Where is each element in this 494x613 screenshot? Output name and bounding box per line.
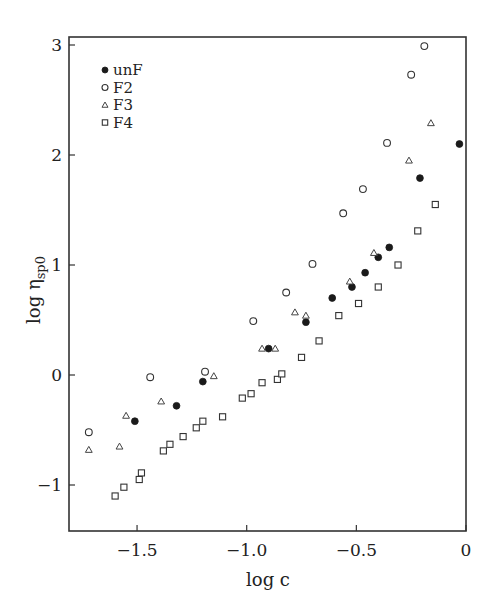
data-point — [202, 368, 209, 375]
legend-label: F4 — [113, 114, 133, 132]
data-point — [309, 261, 316, 268]
data-point — [121, 484, 127, 490]
y-tick-label: 3 — [51, 35, 62, 55]
data-point — [210, 373, 217, 379]
x-tick-label: 0 — [461, 540, 472, 560]
data-point — [298, 354, 304, 360]
data-point — [362, 269, 369, 276]
data-point — [415, 228, 421, 234]
data-point — [316, 338, 322, 344]
open-square-icon — [102, 120, 107, 125]
data-point — [239, 395, 245, 401]
data-point — [340, 210, 347, 217]
series-unf — [131, 141, 462, 425]
filled-circle-icon — [102, 67, 108, 73]
data-point — [85, 446, 92, 452]
data-point — [408, 71, 415, 78]
data-point — [329, 295, 336, 302]
data-point — [421, 43, 428, 50]
data-point — [395, 262, 401, 268]
data-point — [265, 345, 272, 352]
data-point — [220, 414, 226, 420]
legend-item-f2: F2 — [102, 79, 133, 97]
legend-item-f4: F4 — [102, 114, 133, 132]
data-point — [199, 378, 206, 385]
data-point — [432, 201, 438, 207]
data-point — [259, 345, 266, 351]
open-circle-icon — [102, 85, 108, 91]
y-axis-label-main: log η — [23, 279, 44, 324]
data-point — [375, 284, 381, 290]
data-point — [116, 443, 123, 449]
legend-item-f3: F3 — [102, 96, 133, 114]
data-point — [112, 493, 118, 499]
data-point — [292, 309, 299, 315]
data-point — [200, 418, 206, 424]
data-point — [386, 244, 393, 251]
data-point — [360, 186, 367, 193]
data-point — [428, 120, 435, 126]
data-point — [384, 140, 391, 147]
data-point — [303, 319, 310, 326]
scatter-chart: −1.5−1.0−0.50 −10123 unFF2F3F4 log c log… — [0, 0, 494, 613]
data-point — [85, 429, 92, 436]
legend-label: unF — [113, 61, 143, 79]
x-tick-label: −1.0 — [226, 540, 267, 560]
y-axis-label: log ηsp0 — [23, 256, 48, 324]
data-point — [160, 448, 166, 454]
series-f2 — [85, 43, 427, 436]
data-point — [259, 380, 265, 386]
data-point — [167, 441, 173, 447]
data-point — [272, 345, 279, 351]
y-tick-label: 1 — [51, 255, 62, 275]
data-point — [355, 300, 361, 306]
data-point — [138, 470, 144, 476]
data-point — [136, 476, 142, 482]
data-point — [456, 141, 463, 148]
y-tick-label: 2 — [51, 145, 62, 165]
data-point — [283, 289, 290, 296]
data-point — [131, 418, 138, 425]
data-point — [336, 313, 342, 319]
data-point — [180, 434, 186, 440]
x-axis-label: log c — [246, 569, 290, 590]
data-point — [417, 175, 424, 182]
y-tick-label: −1 — [37, 475, 62, 495]
data-points — [85, 43, 462, 499]
y-tick-label: 0 — [51, 365, 62, 385]
data-point — [349, 284, 356, 291]
data-point — [250, 318, 257, 325]
data-point — [303, 312, 310, 318]
x-tick-label: −1.5 — [116, 540, 157, 560]
legend: unFF2F3F4 — [102, 61, 143, 132]
data-point — [147, 374, 154, 381]
legend-label: F2 — [113, 79, 133, 97]
data-point — [346, 278, 353, 284]
data-point — [193, 425, 199, 431]
data-point — [248, 391, 254, 397]
data-point — [158, 398, 165, 404]
data-point — [173, 402, 180, 409]
series-f3 — [85, 120, 434, 453]
data-point — [370, 250, 377, 256]
legend-label: F3 — [113, 96, 133, 114]
legend-item-unf: unF — [102, 61, 143, 79]
x-tick-label: −0.5 — [336, 540, 377, 560]
y-axis-label-subscript: sp0 — [33, 256, 48, 279]
data-point — [123, 412, 130, 418]
data-point — [406, 157, 413, 163]
open-triangle-icon — [102, 102, 108, 107]
data-point — [279, 371, 285, 377]
